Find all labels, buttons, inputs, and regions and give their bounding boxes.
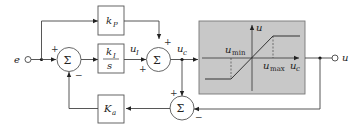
svg-text:u: u xyxy=(256,22,262,33)
svg-text:c: c xyxy=(296,65,300,73)
svg-text:a: a xyxy=(112,109,116,117)
plus-sign: + xyxy=(51,44,59,54)
input-label: e xyxy=(14,54,20,65)
svg-text:Σ: Σ xyxy=(177,102,185,115)
svg-text:Σ: Σ xyxy=(153,54,161,67)
svg-text:max: max xyxy=(270,65,285,73)
svg-text:I: I xyxy=(135,49,139,57)
minus-sign: − xyxy=(75,70,83,80)
antiwindup-gain-block: K a xyxy=(98,95,124,123)
summing-junction-2: Σ xyxy=(147,48,171,72)
svg-text:Σ: Σ xyxy=(64,54,72,67)
integral-gain-block: k I s xyxy=(98,44,124,73)
svg-text:u: u xyxy=(225,44,231,55)
output-terminal: u xyxy=(332,52,348,63)
input-terminal: e xyxy=(14,54,31,65)
svg-text:k: k xyxy=(106,46,112,57)
summing-junction-1: Σ + − xyxy=(51,44,83,80)
svg-text:k: k xyxy=(106,15,112,26)
svg-text:+: + xyxy=(139,64,147,74)
summing-junction-3: Σ + − xyxy=(170,88,203,122)
svg-text:+: + xyxy=(164,37,172,47)
svg-text:min: min xyxy=(232,49,246,57)
signal-label-uc: u c xyxy=(177,43,187,57)
svg-text:c: c xyxy=(183,49,187,57)
signal-label-uI: u I xyxy=(130,43,139,57)
svg-text:s: s xyxy=(107,60,112,71)
proportional-gain-block: k P xyxy=(98,6,124,35)
svg-text:u: u xyxy=(263,60,269,71)
svg-text:K: K xyxy=(103,103,112,114)
block-diagram: e Σ + − k P + k I s u I + Σ u xyxy=(0,0,358,132)
saturation-block: u u min u max u c xyxy=(199,21,305,94)
output-label: u xyxy=(342,52,348,63)
svg-text:−: − xyxy=(195,112,203,122)
svg-text:+: + xyxy=(170,88,178,98)
svg-text:P: P xyxy=(112,21,118,29)
